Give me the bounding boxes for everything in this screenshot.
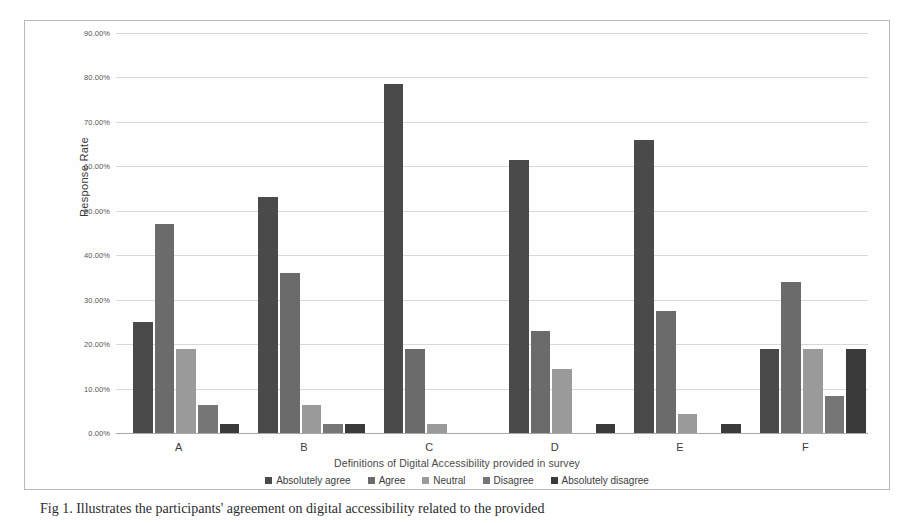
- bar[interactable]: [345, 424, 365, 433]
- bar-slot: [825, 33, 845, 433]
- bar[interactable]: [384, 84, 404, 433]
- legend-label: Absolutely disagree: [562, 475, 649, 486]
- bar-group: C: [367, 33, 492, 433]
- bar-slot: [258, 33, 278, 433]
- figure-container: 0.00%10.00%20.00%30.00%40.00%50.00%60.00…: [0, 0, 914, 523]
- bar-slot: [678, 33, 698, 433]
- x-axis-baseline: [116, 433, 868, 434]
- bar-group-bars: [241, 33, 366, 433]
- bar-slot: [280, 33, 300, 433]
- bar[interactable]: [405, 349, 425, 433]
- bar[interactable]: [176, 349, 196, 433]
- bar-group-bars: [492, 33, 617, 433]
- bar-group-bars: [367, 33, 492, 433]
- bar-slot: [846, 33, 866, 433]
- bar-slot: [449, 33, 469, 433]
- bar[interactable]: [678, 414, 698, 433]
- legend-swatch-icon: [422, 477, 429, 484]
- bar[interactable]: [198, 405, 218, 433]
- legend-label: Agree: [379, 475, 406, 486]
- x-axis-category-label: F: [743, 441, 868, 453]
- bar-group-bars: [116, 33, 241, 433]
- bar-slot: [803, 33, 823, 433]
- bar[interactable]: [634, 140, 654, 433]
- bar[interactable]: [803, 349, 823, 433]
- x-axis-category-label: E: [617, 441, 742, 453]
- bar-group: E: [617, 33, 742, 433]
- x-axis-category-label: D: [492, 441, 617, 453]
- bar-slot: [634, 33, 654, 433]
- x-axis-category-label: A: [116, 441, 241, 453]
- bar-slot: [596, 33, 616, 433]
- bar-slot: [427, 33, 447, 433]
- bar[interactable]: [760, 349, 780, 433]
- x-axis-title: Definitions of Digital Accessibility pro…: [25, 457, 889, 469]
- bar[interactable]: [531, 331, 551, 433]
- plot-area: ABCDEF: [116, 33, 868, 433]
- chart-frame: 0.00%10.00%20.00%30.00%40.00%50.00%60.00…: [24, 20, 890, 490]
- legend-label: Disagree: [494, 475, 534, 486]
- bar-slot: [220, 33, 240, 433]
- bar-slot: [198, 33, 218, 433]
- bar-slot: [552, 33, 572, 433]
- bar[interactable]: [781, 282, 801, 433]
- bar[interactable]: [133, 322, 153, 433]
- legend-swatch-icon: [483, 477, 490, 484]
- bar-slot: [699, 33, 719, 433]
- bar-group: B: [241, 33, 366, 433]
- bar-slot: [405, 33, 425, 433]
- y-axis-tick-label: 10.00%: [84, 384, 110, 393]
- x-axis-category-label: C: [367, 441, 492, 453]
- y-axis-tick-label: 40.00%: [84, 251, 110, 260]
- y-axis-tick-label: 20.00%: [84, 340, 110, 349]
- bar-group: F: [743, 33, 868, 433]
- y-axis-tick-label: 80.00%: [84, 73, 110, 82]
- bar[interactable]: [825, 396, 845, 433]
- bar-slot: [133, 33, 153, 433]
- legend-item[interactable]: Agree: [368, 475, 406, 486]
- legend-item[interactable]: Neutral: [422, 475, 465, 486]
- bar[interactable]: [280, 273, 300, 433]
- bar-slot: [760, 33, 780, 433]
- bar-slot: [302, 33, 322, 433]
- bar[interactable]: [509, 160, 529, 433]
- y-axis-title: Response Rate: [78, 102, 90, 252]
- chart-legend: Absolutely agreeAgreeNeutralDisagreeAbso…: [25, 475, 889, 486]
- bar-slot: [656, 33, 676, 433]
- bar[interactable]: [721, 424, 741, 433]
- bar-slot: [470, 33, 490, 433]
- bar[interactable]: [656, 311, 676, 433]
- bar-group-bars: [743, 33, 868, 433]
- bar[interactable]: [258, 197, 278, 433]
- bar[interactable]: [552, 369, 572, 433]
- bar[interactable]: [155, 224, 175, 433]
- legend-item[interactable]: Absolutely disagree: [551, 475, 649, 486]
- bar[interactable]: [323, 424, 343, 433]
- bar-group-bars: [617, 33, 742, 433]
- legend-label: Absolutely agree: [276, 475, 351, 486]
- bar-slot: [574, 33, 594, 433]
- bar-slot: [176, 33, 196, 433]
- bar[interactable]: [302, 405, 322, 433]
- bar-slot: [721, 33, 741, 433]
- figure-caption: Fig 1. Illustrates the participants' agr…: [40, 500, 880, 523]
- bar-group: A: [116, 33, 241, 433]
- legend-swatch-icon: [368, 477, 375, 484]
- legend-swatch-icon: [551, 477, 558, 484]
- y-axis-tick-label: 0.00%: [88, 429, 110, 438]
- x-axis-category-label: B: [241, 441, 366, 453]
- legend-swatch-icon: [265, 477, 272, 484]
- legend-item[interactable]: Absolutely agree: [265, 475, 351, 486]
- bar[interactable]: [596, 424, 616, 433]
- bar-slot: [323, 33, 343, 433]
- legend-item[interactable]: Disagree: [483, 475, 534, 486]
- legend-label: Neutral: [433, 475, 465, 486]
- bar-slot: [781, 33, 801, 433]
- bar-slot: [155, 33, 175, 433]
- bar-slot: [531, 33, 551, 433]
- bar[interactable]: [220, 424, 240, 433]
- bar-slot: [509, 33, 529, 433]
- y-axis-tick-label: 30.00%: [84, 295, 110, 304]
- bar[interactable]: [427, 424, 447, 433]
- bar[interactable]: [846, 349, 866, 433]
